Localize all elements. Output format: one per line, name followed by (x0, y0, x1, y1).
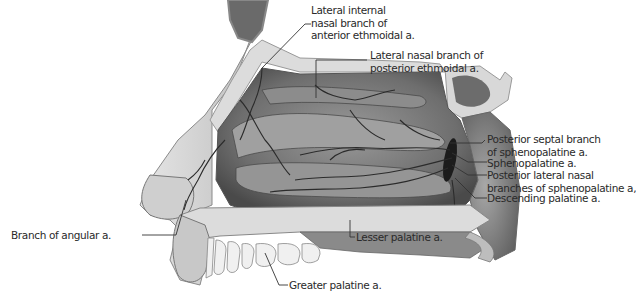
hard-palate (180, 205, 494, 262)
label-line: Descending palatine a. (487, 192, 600, 205)
label-line: nasal branch of (311, 17, 415, 30)
label-posterior-lateral-nasal-branches: Posterior lateral nasal branches of sphe… (487, 169, 636, 194)
label-lateral-nasal-branch-posterior-ethmoidal: Lateral nasal branch of posterior ethmoi… (370, 49, 483, 74)
label-lateral-internal-nasal-branch: Lateral internal nasal branch of anterio… (311, 4, 415, 42)
label-line: Greater palatine a. (289, 279, 381, 292)
upper-teeth (206, 238, 320, 278)
label-greater-palatine: Greater palatine a. (289, 279, 381, 292)
label-line: Sphenopalatine a. (487, 157, 576, 170)
label-line: Lateral nasal branch of (370, 49, 483, 62)
label-line: Posterior septal branch (487, 133, 601, 146)
label-line: posterior ethmoidal a. (370, 62, 483, 75)
label-lesser-palatine: Lesser palatine a. (356, 231, 443, 244)
label-branch-of-angular: Branch of angular a. (11, 229, 111, 242)
label-line: Posterior lateral nasal (487, 169, 636, 182)
label-posterior-septal-branch: Posterior septal branch of sphenopalatin… (487, 133, 601, 158)
nasal-cavity-wall (216, 68, 478, 215)
label-sphenopalatine-artery: Sphenopalatine a. (487, 157, 576, 170)
label-line: Lesser palatine a. (356, 231, 443, 244)
label-line: anterior ethmoidal a. (311, 29, 415, 42)
label-descending-palatine: Descending palatine a. (487, 192, 600, 205)
label-line: Branch of angular a. (11, 229, 111, 242)
label-line: Lateral internal (311, 4, 415, 17)
